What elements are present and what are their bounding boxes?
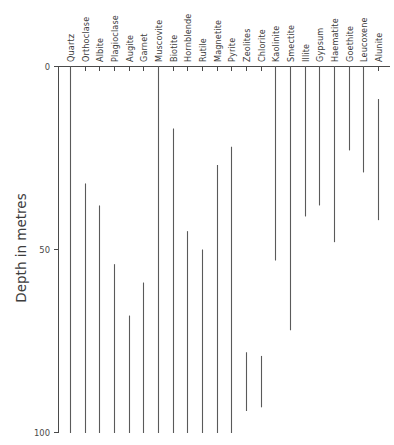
category-label-haematite: Haematite xyxy=(330,18,340,62)
y-tick-label-100: 100 xyxy=(34,428,50,438)
category-label-biotite: Biotite xyxy=(169,35,179,62)
category-label-pyrite: Pyrite xyxy=(227,38,237,62)
category-label-plagioclase: Plagioclase xyxy=(110,15,120,62)
category-label-albite: Albite xyxy=(95,38,105,62)
category-label-quartz: Quartz xyxy=(66,34,76,62)
chart-canvas: Depth in metres 0 50 100 QuartzOrthoclas… xyxy=(0,0,394,445)
y-tick-label-0: 0 xyxy=(45,62,50,72)
category-label-illite: Illite xyxy=(301,44,311,62)
category-label-zeolites: Zeolites xyxy=(242,28,252,62)
x-tick-group xyxy=(71,67,379,72)
category-label-goethite: Goethite xyxy=(345,26,355,62)
category-label-gypsum: Gypsum xyxy=(315,28,325,62)
y-tick-label-50: 50 xyxy=(39,245,50,255)
mineral-depth-range-chart: Depth in metres 0 50 100 QuartzOrthoclas… xyxy=(0,0,394,445)
category-label-smectite: Smectite xyxy=(286,25,296,62)
category-label-muscovite: Muscovite xyxy=(154,20,164,62)
category-label-augite: Augite xyxy=(125,35,135,62)
category-label-orthoclase: Orthoclase xyxy=(81,17,91,62)
y-axis-title: Depth in metres xyxy=(13,193,29,302)
category-label-garnet: Garnet xyxy=(139,33,149,62)
category-label-alunite: Alunite xyxy=(374,33,384,63)
category-label-leucoxene: Leucoxene xyxy=(359,17,369,62)
category-label-chlorite: Chlorite xyxy=(257,29,267,62)
category-label-magnetite: Magnetite xyxy=(213,20,223,62)
y-tick-group: 0 50 100 xyxy=(34,62,59,438)
bar-group xyxy=(71,66,379,433)
category-label-hornblende: Hornblende xyxy=(183,14,193,62)
category-label-kaolinite: Kaolinite xyxy=(271,26,281,62)
category-label-group: QuartzOrthoclaseAlbitePlagioclaseAugiteG… xyxy=(66,14,384,62)
category-label-rutile: Rutile xyxy=(198,38,208,62)
